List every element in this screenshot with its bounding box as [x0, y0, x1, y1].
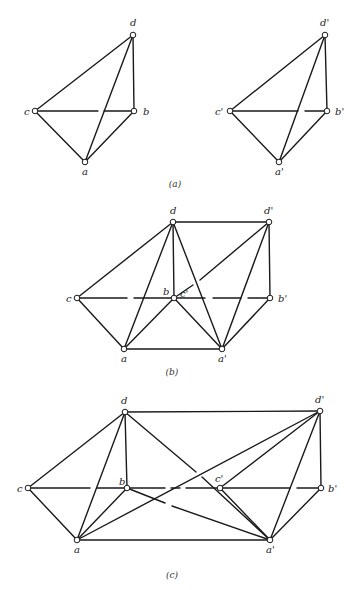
vertex-label: a'	[275, 166, 284, 177]
edge-line	[220, 488, 270, 540]
vertex-node-a-prime	[267, 537, 273, 543]
vertex-node-b	[171, 295, 177, 301]
panel-caption-c: (c)	[166, 570, 179, 580]
edge-line	[125, 412, 196, 472]
edge-line	[325, 35, 327, 111]
vertex-label: a	[121, 353, 127, 364]
vertex-node-b-prime	[267, 295, 273, 301]
edge-line	[28, 488, 77, 540]
vertex-node-c-prime	[217, 485, 223, 491]
edge-line	[269, 222, 270, 298]
vertex-label: d'	[264, 205, 273, 216]
vertex-node-d-prime	[317, 408, 323, 414]
vertex-label: b	[119, 476, 125, 487]
vertex-label: c	[66, 293, 72, 304]
vertex-label: b	[143, 106, 149, 117]
nodes-layer	[25, 32, 330, 543]
vertex-label: d'	[320, 17, 329, 28]
vertex-node-c	[25, 485, 31, 491]
edge-line	[173, 222, 222, 349]
vertex-node-c-prime	[227, 108, 233, 114]
edges-layer	[28, 35, 327, 540]
vertex-node-a	[74, 537, 80, 543]
vertex-node-d-prime	[266, 219, 272, 225]
vertex-node-c	[32, 108, 38, 114]
vertex-node-d	[130, 32, 136, 38]
edge-line	[320, 411, 321, 488]
vertex-label: b'	[335, 106, 344, 117]
vertex-node-a-prime	[276, 159, 282, 165]
vertex-label: c'	[215, 473, 223, 484]
vertex-label: c	[17, 483, 23, 494]
vertex-label: a	[82, 166, 88, 177]
edge-line	[77, 411, 320, 540]
vertex-node-a	[82, 159, 88, 165]
vertex-label: b'	[328, 483, 337, 494]
edge-line	[174, 298, 222, 349]
vertex-node-d	[170, 219, 176, 225]
vertex-label: a	[74, 544, 80, 555]
edge-line	[125, 411, 320, 412]
vertex-label: c'	[215, 106, 223, 117]
vertex-label: a'	[218, 353, 227, 364]
edge-line	[230, 111, 279, 162]
vertex-label: d	[130, 17, 136, 28]
edge-line	[222, 298, 270, 349]
graph-figure: dcbad'c'b'a'dd'cbc'b'aa'dd'cbc'b'aa' (a)…	[0, 0, 352, 590]
vertex-node-c	[74, 295, 80, 301]
edge-line	[270, 488, 321, 540]
edge-line	[124, 298, 174, 349]
vertex-node-b-prime	[324, 108, 330, 114]
vertex-label: a'	[266, 544, 275, 555]
vertex-node-b-prime	[318, 485, 324, 491]
edge-line	[85, 111, 134, 162]
edge-line	[133, 35, 134, 111]
edge-line	[172, 506, 270, 540]
panel-caption-b: (b)	[166, 367, 179, 377]
vertex-label: d'	[315, 394, 324, 405]
vertex-node-b	[131, 108, 137, 114]
vertex-label: d	[170, 205, 176, 216]
edge-line	[35, 111, 85, 162]
vertex-node-d-prime	[322, 32, 328, 38]
vertex-node-a	[121, 346, 127, 352]
vertex-label: c	[24, 106, 30, 117]
vertex-node-a-prime	[219, 346, 225, 352]
edge-line	[279, 111, 327, 162]
vertex-label: c'	[180, 288, 188, 299]
vertex-node-d	[122, 409, 128, 415]
vertex-label: d	[121, 395, 127, 406]
edge-line	[77, 298, 124, 349]
edge-line	[202, 477, 270, 540]
vertex-label: b	[163, 286, 169, 297]
edge-line	[173, 222, 174, 298]
edge-line	[127, 488, 165, 503]
vertex-label: b'	[278, 293, 287, 304]
panel-caption-a: (a)	[169, 179, 182, 189]
edge-line	[77, 488, 127, 540]
